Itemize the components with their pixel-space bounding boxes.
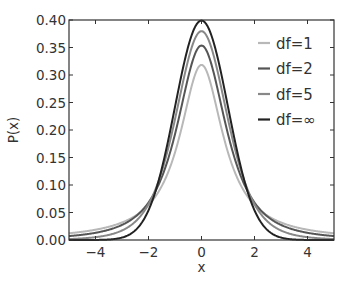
x-tick-label: 4: [303, 244, 312, 260]
legend-label: df=2: [276, 60, 313, 78]
t-distribution-chart: 0.000.050.100.150.200.250.300.350.40 −4−…: [0, 0, 351, 283]
x-axis-label: x: [198, 259, 206, 275]
y-tick-label: 0.30: [36, 67, 66, 83]
y-axis-label: P(x): [5, 117, 21, 144]
x-tick-label: −2: [139, 244, 159, 260]
y-tick-label: 0.00: [36, 232, 66, 248]
x-tick-label: 0: [197, 244, 206, 260]
curve-series-3: [69, 21, 334, 240]
y-tick-label: 0.20: [36, 122, 66, 138]
y-tick-label: 0.10: [36, 177, 66, 193]
legend-label: df=5: [276, 86, 313, 104]
legend-label: df=∞: [276, 111, 316, 129]
legend: df=1df=2df=5df=∞: [258, 35, 316, 130]
y-tick-label: 0.40: [36, 12, 66, 28]
plot-frame: [69, 20, 334, 240]
y-tick-label: 0.05: [36, 205, 66, 221]
y-tick-label: 0.25: [36, 95, 66, 111]
legend-label: df=1: [276, 35, 313, 53]
x-tick-label: 2: [250, 244, 259, 260]
x-tick-label: −4: [86, 244, 106, 260]
y-tick-label: 0.35: [36, 40, 66, 56]
y-tick-label: 0.15: [36, 150, 66, 166]
curves-group: [69, 21, 334, 240]
